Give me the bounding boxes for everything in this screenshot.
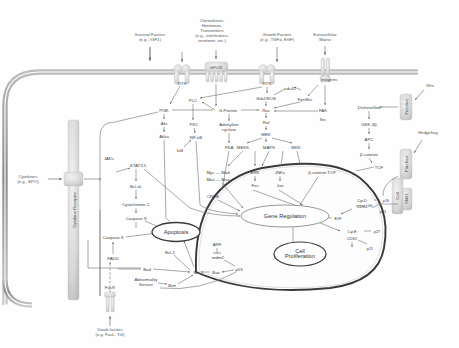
- cytokine-receptor-icon: [64, 120, 83, 300]
- cell-signaling-diagram: Survival Factors (e.g., IGF1) Chemokines…: [0, 0, 459, 348]
- cadherins-icon: [392, 178, 403, 214]
- frizzled-icon: [400, 94, 412, 120]
- gpcr-icon: [205, 62, 228, 82]
- fasr-icon: [105, 292, 116, 312]
- patched-icon: [400, 149, 412, 179]
- pathway-vector-layer: [0, 0, 459, 348]
